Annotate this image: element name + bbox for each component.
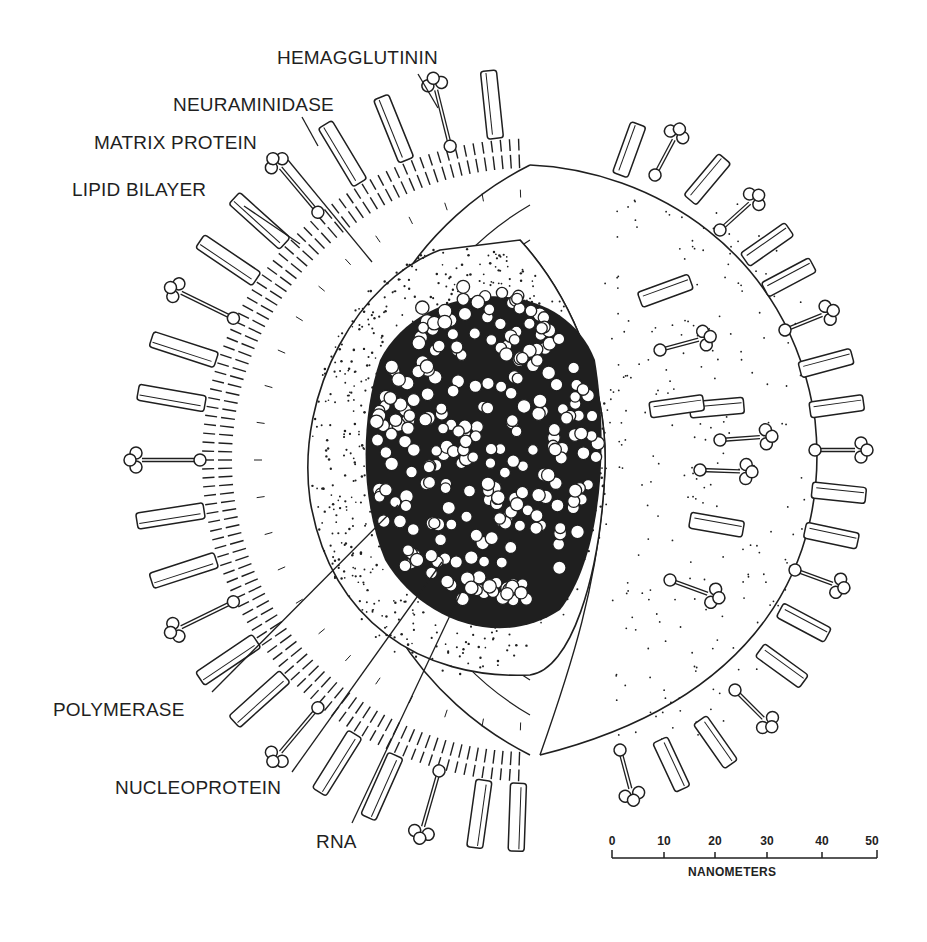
scale-unit-label: NANOMETERS [688,866,776,878]
label-hemagglutinin: HEMAGGLUTININ [277,48,438,67]
label-nucleoprotein: NUCLEOPROTEIN [115,778,281,797]
nucleoprotein-beads [366,280,605,628]
scale-tick-20: 20 [708,835,721,847]
scale-tick-50: 50 [865,835,878,847]
label-polymerase: POLYMERASE [53,700,185,719]
label-lipid-bilayer: LIPID BILAYER [72,180,206,199]
scale-tick-0: 0 [609,835,616,847]
scale-tick-40: 40 [815,835,828,847]
label-matrix-protein: MATRIX PROTEIN [94,133,257,152]
label-neuraminidase: NEURAMINIDASE [173,95,334,114]
scale-tick-30: 30 [760,835,773,847]
scale-bar [612,850,877,858]
label-rna: RNA [316,832,357,851]
scale-tick-10: 10 [657,835,670,847]
